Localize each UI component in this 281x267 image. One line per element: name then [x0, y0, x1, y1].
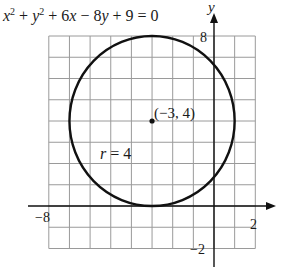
eq-plus-1: + [15, 7, 32, 24]
eq-var-y2: y [101, 7, 108, 24]
radius-label: r = 4 [100, 146, 131, 162]
plot-area [0, 0, 281, 267]
x-tick-2: 2 [250, 218, 257, 232]
x-tick-minus-8: −8 [35, 211, 50, 225]
y-tick-8: 8 [200, 31, 207, 45]
equation-label: x2 + y2 + 6x − 8y + 9 = 0 [3, 8, 159, 24]
eq-rest: + 9 = 0 [109, 7, 159, 24]
grid-lines [49, 36, 256, 249]
y-axis-label: y [208, 0, 215, 15]
circle-graph-figure: x2 + y2 + 6x − 8y + 9 = 0 y 8 −2 −8 2 (−… [0, 0, 281, 267]
x-axis-arrow-icon [266, 202, 276, 210]
eq-term-8: − 8 [76, 7, 101, 24]
center-point-label: (−3, 4) [154, 106, 195, 121]
y-tick-minus-2: −2 [190, 243, 205, 257]
eq-term-6: + 6 [44, 7, 69, 24]
radius-value: = 4 [106, 145, 131, 162]
